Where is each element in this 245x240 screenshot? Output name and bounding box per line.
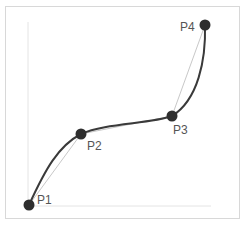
label-p4: P4 (180, 21, 195, 33)
spline-curve (29, 25, 205, 205)
label-p2: P2 (87, 140, 102, 152)
control-polyline (29, 25, 205, 205)
point-p1[interactable] (24, 200, 35, 211)
label-p3: P3 (173, 124, 188, 136)
point-p4[interactable] (200, 20, 211, 31)
point-p3[interactable] (167, 111, 178, 122)
point-p2[interactable] (76, 129, 87, 140)
label-p1: P1 (37, 194, 52, 206)
